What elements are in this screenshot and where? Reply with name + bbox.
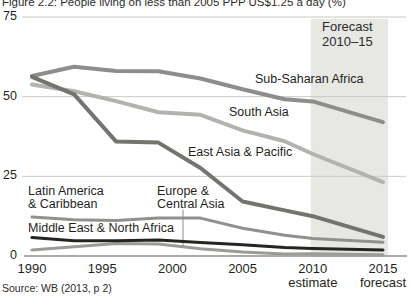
- series-label-south-asia: South Asia: [229, 106, 289, 119]
- series-label-east-asia-pacific: East Asia & Pacific: [188, 146, 292, 159]
- y-tick-75: 75: [0, 10, 17, 23]
- source-note: Source: WB (2013, p 2): [2, 282, 112, 294]
- y-tick-25: 25: [0, 169, 17, 182]
- x-tick-2015: 2015 forecast: [360, 262, 406, 290]
- x-tick-1995: 1995: [88, 262, 117, 276]
- x-tick-1990: 1990: [18, 262, 47, 276]
- x-tick-2000: 2000: [158, 262, 187, 276]
- series-label-sub-saharan-africa: Sub-Saharan Africa: [255, 73, 363, 86]
- series-label-latin-america-caribbean: Latin America & Caribbean: [28, 185, 104, 210]
- series-label-europe-central-asia: Europe & Central Asia: [157, 185, 224, 210]
- x-tick-2005: 2005: [228, 262, 257, 276]
- y-tick-0: 0: [0, 249, 17, 262]
- forecast-band: [311, 19, 388, 257]
- chart-figure: Figure 2.2: People living on less than 2…: [0, 0, 411, 297]
- series-label-middle-east-north-africa: Middle East & North Africa: [28, 222, 174, 235]
- x-tick-2010: 2010 estimate: [288, 262, 337, 290]
- forecast-band-label: Forecast 2010–15: [322, 20, 373, 49]
- y-tick-50: 50: [0, 90, 17, 103]
